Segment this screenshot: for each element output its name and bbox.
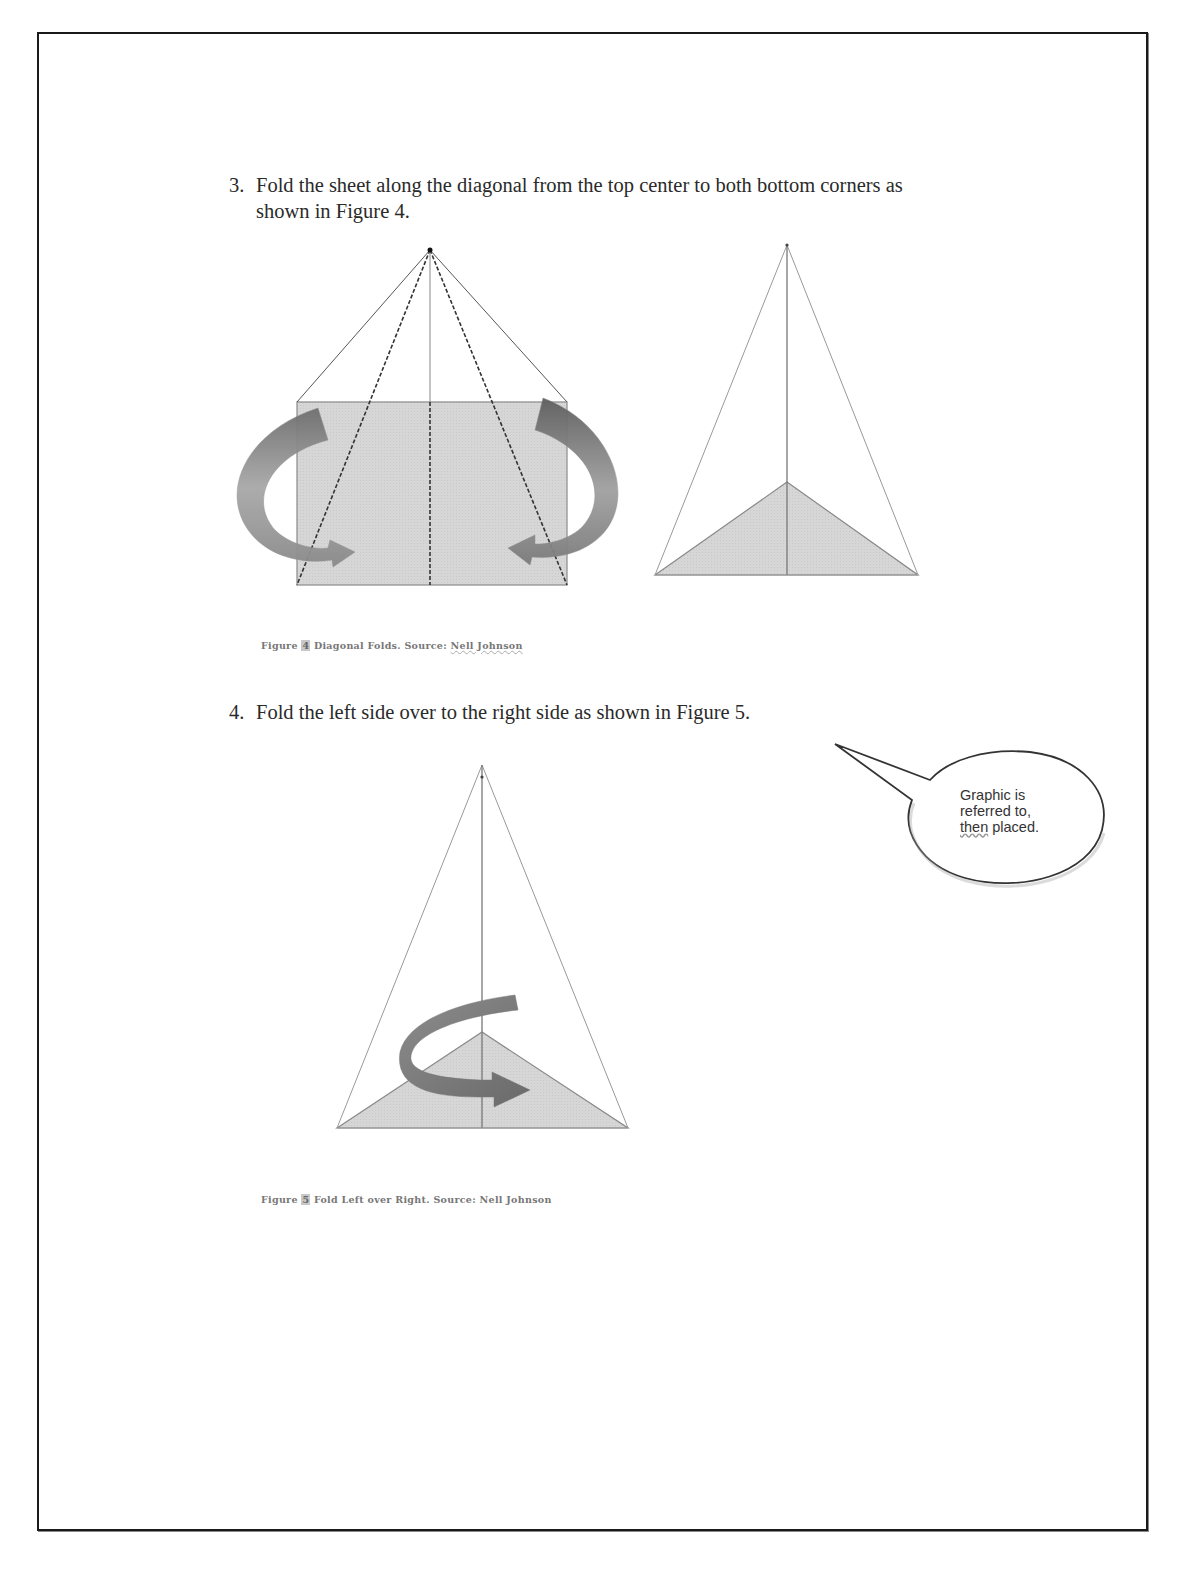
callout-text: Graphic is referred to, then placed. (960, 787, 1070, 835)
figure-number: 5 (301, 1194, 310, 1205)
step-number: 4. (229, 699, 244, 725)
caption-author: Nell Johnson (451, 640, 523, 651)
figure-number: 4 (301, 640, 310, 651)
figure-4-caption: Figure 4 Diagonal Folds. Source: Nell Jo… (261, 640, 523, 651)
figure-4-right-panel (655, 243, 918, 575)
step-4: 4. Fold the left side over to the right … (229, 699, 929, 725)
figure-5-illustration (337, 765, 628, 1128)
step-text: Fold the left side over to the right sid… (229, 699, 929, 725)
figure-5-caption: Figure 5 Fold Left over Right. Source: N… (261, 1194, 552, 1205)
caption-author: Nell Johnson (480, 1194, 552, 1205)
figure-4-left-panel (237, 248, 618, 586)
